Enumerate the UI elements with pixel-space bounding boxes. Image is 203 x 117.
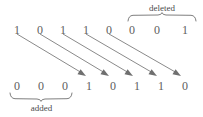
top-bit-6: 0: [150, 24, 164, 36]
alignment-arrow-0: [17, 34, 86, 76]
alignment-arrows: [17, 34, 181, 76]
bottom-bit-6: 1: [154, 80, 168, 92]
bottom-bit-7: 0: [178, 80, 192, 92]
bottom-bit-0: 0: [10, 80, 24, 92]
top-bit-7: 1: [178, 24, 192, 36]
deleted-label: deleted: [128, 3, 196, 13]
bottom-bit-5: 1: [130, 80, 144, 92]
alignment-arrow-1: [40, 34, 109, 76]
bottom-bit-4: 0: [106, 80, 120, 92]
alignment-arrow-4: [109, 34, 181, 76]
top-bit-2: 1: [56, 24, 70, 36]
bottom-bit-3: 1: [82, 80, 96, 92]
alignment-arrow-3: [86, 34, 157, 76]
bit-alignment-diagram: 1 0 1 1 0 0 0 1 0 0 0 1 0 1 1 0 deleted …: [0, 0, 203, 117]
top-bit-4: 0: [102, 24, 116, 36]
deleted-brace: [128, 13, 196, 21]
top-bit-3: 1: [79, 24, 93, 36]
top-bit-5: 0: [125, 24, 139, 36]
bottom-bit-2: 0: [58, 80, 72, 92]
diagram-overlay: [0, 0, 203, 117]
added-label: added: [10, 103, 73, 113]
top-bit-0: 1: [10, 24, 24, 36]
alignment-arrow-2: [63, 34, 133, 76]
top-bit-1: 0: [33, 24, 47, 36]
bottom-bit-1: 0: [34, 80, 48, 92]
added-brace: [10, 93, 72, 101]
